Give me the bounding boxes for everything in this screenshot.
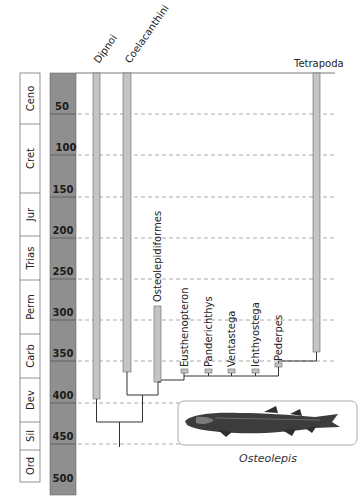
taxon-label-tetrapoda: Tetrapoda — [293, 58, 344, 69]
tick-100: 100 — [56, 142, 77, 153]
panderichthys-marker — [205, 369, 212, 373]
osteolepis-illustration: Osteolepis — [178, 401, 357, 465]
pederpes-marker — [275, 363, 282, 367]
period-label-carb: Carb — [25, 344, 36, 368]
period-label-dev: Dev — [25, 390, 36, 410]
period-label-cret: Cret — [25, 148, 36, 169]
tick-50: 50 — [55, 101, 69, 112]
tick-400: 400 — [53, 390, 74, 401]
period-label-sil: Sil — [25, 430, 36, 442]
timescale-bar: 50 100 150 200 250 300 350 400 450 500 — [50, 73, 76, 495]
period-label-perm: Perm — [25, 294, 36, 320]
tick-300: 300 — [53, 307, 74, 318]
tick-450: 450 — [53, 431, 74, 442]
illustration-caption: Osteolepis — [239, 452, 297, 465]
period-label-ceno: Ceno — [25, 86, 36, 112]
ichthyostega-marker — [252, 369, 259, 373]
tick-350: 350 — [53, 348, 74, 359]
taxon-label-coelacanthini: Coelacanthini — [123, 3, 171, 65]
tick-500: 500 — [53, 473, 74, 484]
taxon-label-pederpes: Pederpes — [273, 315, 284, 361]
period-label-trias: Trias — [25, 247, 36, 271]
tick-150: 150 — [53, 184, 74, 195]
ventastega-marker — [228, 369, 235, 373]
period-label-jur: Jur — [25, 207, 36, 222]
phylogeny-diagram: Ceno Cret Jur Trias Perm Carb Dev Sil Or… — [0, 0, 363, 500]
taxon-label-eusthenopteron: Eusthenopteron — [179, 287, 190, 367]
tick-250: 250 — [53, 266, 74, 277]
taxon-label-osteolepidiformes: Osteolepidiformes — [152, 211, 163, 302]
dipnoi-range-bar — [93, 73, 100, 399]
period-label-ord: Ord — [25, 457, 36, 475]
taxon-label-ventastega: Ventastega — [226, 311, 237, 367]
taxon-label-panderichthys: Panderichthys — [203, 296, 214, 367]
gridlines — [78, 114, 335, 444]
period-column: Ceno Cret Jur Trias Perm Carb Dev Sil Or… — [20, 73, 40, 482]
taxon-label-ichthyostega: Ichthyostega — [250, 302, 261, 367]
osteolepidiformes-range-bar — [154, 306, 161, 382]
eusthenopteron-marker — [181, 369, 188, 373]
taxon-label-dipnoi: Dipnoi — [92, 33, 119, 66]
tick-200: 200 — [53, 225, 74, 236]
coelacanthini-range-bar — [123, 73, 131, 372]
tetrapoda-range-bar — [313, 73, 320, 352]
